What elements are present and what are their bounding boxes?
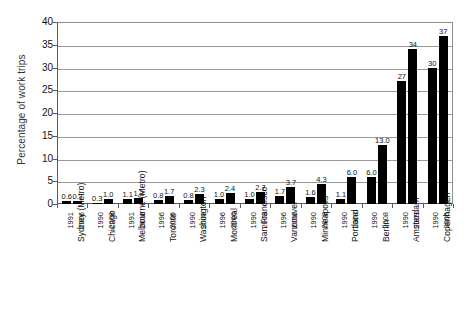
bar-value-label: 1.7 [164, 187, 174, 196]
y-axis-tick-mark [53, 90, 57, 91]
year-label: 1996 [278, 212, 287, 228]
bar [306, 197, 315, 204]
bar [275, 196, 284, 204]
bar-value-label: 2.4 [225, 184, 235, 193]
bar [165, 196, 174, 204]
year-label: 1990 [400, 212, 409, 228]
x-axis-tick [453, 204, 454, 208]
bar-value-label: 0.8 [183, 191, 193, 200]
year-label: 1990 [339, 212, 348, 228]
bar-value-label: 1.0 [244, 190, 254, 199]
bar-value-label: 1.7 [275, 187, 285, 196]
year-label: 1990 [370, 212, 379, 228]
city-label: Sydney (Metro) [76, 182, 86, 242]
city-label: Chicago [107, 210, 117, 242]
bar-value-label: 1.0 [214, 190, 224, 199]
year-label: 1996 [218, 212, 227, 228]
bar-value-label: 1.1 [336, 190, 346, 199]
bar [397, 81, 406, 204]
bar-value-label: 3.7 [286, 178, 296, 187]
city-label: Portland [350, 210, 360, 242]
bar [367, 177, 376, 204]
y-axis-tick-label: 25 [5, 84, 53, 95]
city-label: Minneapolis [320, 196, 330, 242]
bar-value-label: 4.3 [316, 175, 326, 184]
y-axis-tick-mark [53, 181, 57, 182]
bar [226, 193, 235, 204]
y-axis-tick-mark [53, 159, 57, 160]
year-label: 1991 [65, 212, 74, 228]
city-label: Copenhagen [442, 192, 452, 242]
bar-value-label: 13.0 [375, 136, 390, 145]
y-axis-tick-label: 40 [5, 16, 53, 27]
bar-value-label: 37 [439, 27, 447, 36]
year-label: 1990 [309, 212, 318, 228]
city-label: Washington [198, 196, 208, 242]
y-axis-tick-mark [53, 68, 57, 69]
y-axis-tick-label: 35 [5, 39, 53, 50]
bar-chart: Percentage of work trips 051015202530354… [0, 0, 464, 328]
bar-value-label: 0.6 [62, 192, 72, 201]
y-axis-tick-labels: 0510152025303540 [0, 22, 53, 204]
city-label: Vancouver [289, 201, 299, 242]
year-label: 1990 [431, 212, 440, 228]
bars-layer: 0.60.70.31.01.11.30.81.70.82.31.02.41.02… [57, 22, 453, 204]
bar [347, 177, 356, 204]
y-axis-tick-mark [53, 22, 57, 23]
bar [428, 68, 437, 205]
bar-value-label: 1.6 [305, 188, 315, 197]
y-axis-tick-label: 15 [5, 130, 53, 141]
bar [408, 49, 417, 204]
bar-value-label: 27 [398, 72, 406, 81]
x-axis-city-labels: Sydney (Metro)ChicagoMelbourne (Metro)To… [57, 242, 453, 326]
y-axis-tick-label: 0 [5, 198, 53, 209]
y-axis-tick-mark [53, 113, 57, 114]
y-axis-tick-mark [53, 45, 57, 46]
bar-value-label: 6.0 [347, 168, 357, 177]
bar-value-label: 0.8 [153, 191, 163, 200]
bar-value-label: 30 [428, 59, 436, 68]
year-label: 1996 [157, 212, 166, 228]
year-label: 1990 [248, 212, 257, 228]
bar-value-label: 1.0 [103, 190, 113, 199]
bar-value-label: 34 [409, 40, 417, 49]
year-label: 1990 [96, 212, 105, 228]
bar [439, 36, 448, 204]
bar-value-label: 6.0 [366, 168, 376, 177]
city-label: San Francisco [259, 186, 269, 242]
bar-value-label: 0.3 [92, 194, 102, 203]
city-label: Toronto [168, 213, 178, 242]
city-label: Berlin [381, 220, 391, 242]
y-axis-tick-label: 10 [5, 153, 53, 164]
bar [378, 145, 387, 204]
y-axis-tick-label: 30 [5, 62, 53, 73]
y-axis-tick-mark [53, 204, 57, 205]
city-label: Melbourne (Metro) [137, 170, 147, 242]
bar-value-label: 2.3 [194, 185, 204, 194]
y-axis-tick-mark [53, 136, 57, 137]
city-label: Montreal [229, 208, 239, 242]
y-axis-tick-label: 20 [5, 107, 53, 118]
y-axis-tick-label: 5 [5, 175, 53, 186]
year-label: 1990 [187, 212, 196, 228]
year-label: 1991 [126, 212, 135, 228]
city-label: Amsterdam [411, 198, 421, 242]
bar-value-label: 1.1 [122, 190, 132, 199]
